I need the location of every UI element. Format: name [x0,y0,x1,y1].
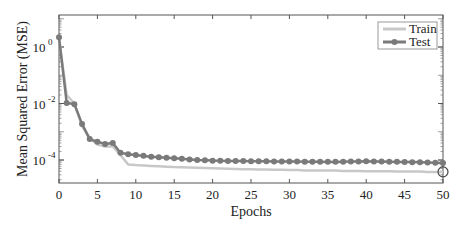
test-marker [271,158,277,164]
test-marker [325,159,331,165]
test-marker [225,158,231,164]
legend: Train Test [378,21,437,49]
x-tick-label: 35 [321,187,334,202]
test-marker [363,158,369,164]
test-marker [125,151,131,157]
test-marker [233,158,239,164]
test-marker [194,157,200,163]
y-axis-label: Mean Squared Error (MSE) [15,21,31,177]
test-marker [171,155,177,161]
legend-test-label: Test [409,34,431,49]
x-tick-label: 15 [168,187,181,202]
test-marker [309,159,315,165]
y-tick-label: 10 [33,153,46,168]
test-marker [71,101,77,107]
test-marker [179,156,185,162]
test-marker [294,159,300,165]
x-tick-label: 20 [206,187,219,202]
test-marker [286,159,292,165]
x-tick-label: 50 [437,187,450,202]
test-marker [340,159,346,165]
test-marker [256,158,262,164]
test-marker [263,158,269,164]
test-marker [87,136,93,142]
test-marker [440,160,446,166]
y-tick-exponent: 0 [48,37,53,47]
test-marker [317,159,323,165]
test-marker [117,150,123,156]
test-marker [217,158,223,164]
test-marker [279,158,285,164]
test-marker [156,154,162,160]
x-tick-label: 40 [360,187,373,202]
test-marker [110,140,116,146]
test-marker [210,158,216,164]
test-marker [302,159,308,165]
y-tick-label: 10 [33,40,46,55]
test-marker [409,159,415,165]
test-marker [425,159,431,165]
test-marker [56,34,62,40]
test-marker [240,158,246,164]
test-marker [79,121,85,127]
x-axis-label: Epochs [230,204,271,219]
x-tick-label: 30 [283,187,296,202]
test-marker [248,158,254,164]
test-marker [386,159,392,165]
y-tick-exponent: -2 [48,94,56,104]
test-marker [187,156,193,162]
test-marker [94,139,100,145]
test-marker [148,154,154,160]
x-tick-label: 0 [56,187,63,202]
test-marker [332,159,338,165]
y-tick-label: 10 [33,97,46,112]
test-marker [64,100,70,106]
test-marker [133,152,139,158]
test-marker [202,157,208,163]
test-marker [371,158,377,164]
x-tick-label: 10 [129,187,142,202]
y-tick-exponent: -4 [48,150,56,160]
x-tick-label: 5 [94,187,101,202]
test-marker [356,158,362,164]
test-marker [379,159,385,165]
test-marker [432,160,438,166]
x-tick-label: 45 [398,187,411,202]
mse-chart: 05101520253035404550 10010-210-4 Train T… [0,0,469,226]
test-marker [164,155,170,161]
x-tick-label: 25 [245,187,258,202]
legend-test-marker-icon [392,39,398,45]
test-marker [394,159,400,165]
test-marker [402,159,408,165]
test-marker [140,153,146,159]
test-marker [348,159,354,165]
test-marker [102,141,108,147]
test-marker [417,159,423,165]
